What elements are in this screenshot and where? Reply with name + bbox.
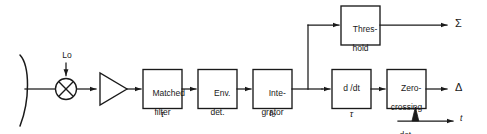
zero-crossing-detector-label-line3: det. (387, 131, 426, 134)
lo-label: Lo (55, 51, 79, 60)
time-axis-label: t (460, 114, 462, 123)
parabolic-reflector-antenna (20, 55, 55, 126)
threshold-label-line1: Thres- (353, 24, 378, 34)
derivative-label: d /dt (332, 84, 371, 93)
mixer (56, 79, 77, 100)
integrator-label-line1: Inte- (269, 88, 286, 98)
block-diagram: Lo Matched filter τ Env. det. Inte- grat… (0, 0, 487, 134)
envelope-detector-label-line1: Env. (214, 88, 230, 98)
threshold-label-line2: hold (341, 44, 380, 54)
delta-output-label: Δ (455, 82, 462, 94)
integrator-sub-label: t₀ (253, 109, 292, 118)
threshold-label: Thres- hold (341, 15, 380, 72)
matched-filter-label-line1: Matched (152, 88, 185, 98)
matched-filter-label: Matched filter (143, 79, 182, 134)
zero-crossing-detector-label-line1: Zero- (401, 83, 421, 93)
derivative-sub-label: τ (332, 110, 371, 119)
envelope-detector-label-line2: det. (198, 108, 237, 118)
zero-crossing-detector-label: Zero- crossing det. (387, 74, 426, 134)
matched-filter-sub-label: τ (143, 110, 182, 119)
integrator-label: Inte- grator (253, 79, 292, 134)
sum-output-label: Σ (455, 18, 462, 30)
amplifier (100, 73, 127, 105)
envelope-detector-label: Env. det. (198, 79, 237, 134)
zero-crossing-detector-label-line2: crossing (387, 103, 426, 113)
